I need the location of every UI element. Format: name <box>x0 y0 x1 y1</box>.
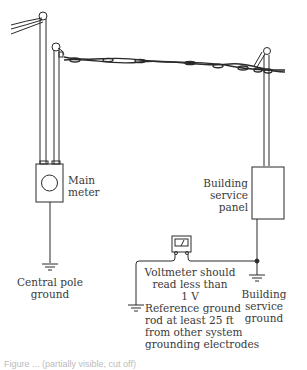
label-line: grounding electrodes <box>145 338 259 350</box>
central-pole-ground-label: Central pole ground <box>10 276 90 300</box>
main-meter <box>36 161 63 263</box>
label-line: Building <box>190 177 248 189</box>
label-line: rod at least 25 ft <box>145 314 259 326</box>
main-meter-label: Main meter <box>68 174 100 198</box>
incoming-wires <box>11 18 43 34</box>
voltmeter-icon <box>172 236 191 255</box>
building-service-panel-label: Building service panel <box>190 177 248 213</box>
label-line: Central pole <box>10 276 90 288</box>
label-line: Main <box>68 174 100 186</box>
label-line: from other system <box>145 326 259 338</box>
left-pole <box>39 12 47 164</box>
building-service-ground-icon <box>249 275 265 281</box>
service-drop-cable <box>64 57 285 73</box>
figure-caption: Figure ... (partially visible, cut off) <box>4 359 136 369</box>
label-line: panel <box>190 201 248 213</box>
label-line: ground <box>10 288 90 300</box>
label-line: service <box>190 189 248 201</box>
reference-ground-icon <box>128 305 144 311</box>
left-conduit <box>52 43 64 164</box>
central-pole-ground-icon <box>42 264 58 270</box>
label-line: Reference ground <box>145 302 259 314</box>
label-line: Voltmeter should <box>140 266 240 278</box>
right-pole <box>254 48 272 167</box>
reference-ground-rod-label: Reference ground rod at least 25 ft from… <box>145 302 259 350</box>
building-service-panel <box>252 167 284 260</box>
label-line: meter <box>68 186 100 198</box>
